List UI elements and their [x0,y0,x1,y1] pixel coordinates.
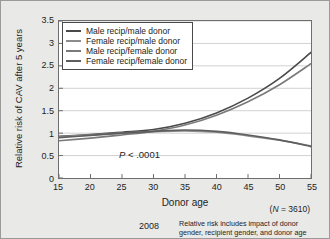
x-tick-label: 20 [85,182,95,192]
x-tick-marks [59,174,311,178]
legend-line-swatch [66,30,81,32]
n-suffix: = 3610) [279,204,310,214]
y-tick-label: 1.5 [41,106,54,116]
y-tick-label: 0.5 [41,151,54,161]
x-tick-label: 50 [275,182,285,192]
sample-size-label: (N = 3610) [270,204,310,214]
x-tick-label: 25 [116,182,126,192]
legend-item[interactable]: Female recip/male donor [66,36,187,46]
legend-item-label: Male recip/male donor [86,26,170,36]
x-tick-label: 40 [212,182,222,192]
y-tick-label: 2 [49,83,54,93]
x-tick-label: 45 [243,182,253,192]
legend-line-swatch [66,60,81,62]
figure-panel: Relative risk of CAV after 5 years 00.51… [0,0,330,239]
legend-item[interactable]: Male recip/female donor [66,46,187,56]
legend-item[interactable]: Female recip/female donor [66,56,187,66]
x-tick-label: 15 [53,182,63,192]
x-tick-label: 55 [307,182,317,192]
series-line-2 [59,64,311,141]
p-value-text: < .0001 [125,149,160,160]
legend-item-label: Female recip/female donor [86,56,187,66]
series-line-3 [59,130,311,147]
legend-line-swatch [66,40,81,42]
legend-item-label: Male recip/female donor [86,46,177,56]
figure-caption: Relative risk includes impact of donor g… [179,220,325,237]
caption-line-2: gender, recipient gender, and donor age [179,229,325,238]
y-tick-label: 3.5 [41,15,54,25]
x-tick-label: 30 [148,182,158,192]
p-value-annotation: P < .0001 [119,149,160,160]
x-axis-tick-labels: 152025303540455055 [58,182,312,196]
chart-legend: Male recip/male donorFemale recip/male d… [62,22,193,70]
y-tick-label: 3 [49,38,54,48]
y-tick-label: 1 [49,129,54,139]
legend-item[interactable]: Male recip/male donor [66,26,187,36]
y-axis-tick-labels: 00.511.522.533.5 [21,20,54,179]
year-label: 2008 [139,221,159,231]
legend-item-label: Female recip/male donor [86,36,180,46]
x-tick-label: 35 [180,182,190,192]
legend-line-swatch [66,50,81,52]
y-tick-label: 2.5 [41,60,54,70]
